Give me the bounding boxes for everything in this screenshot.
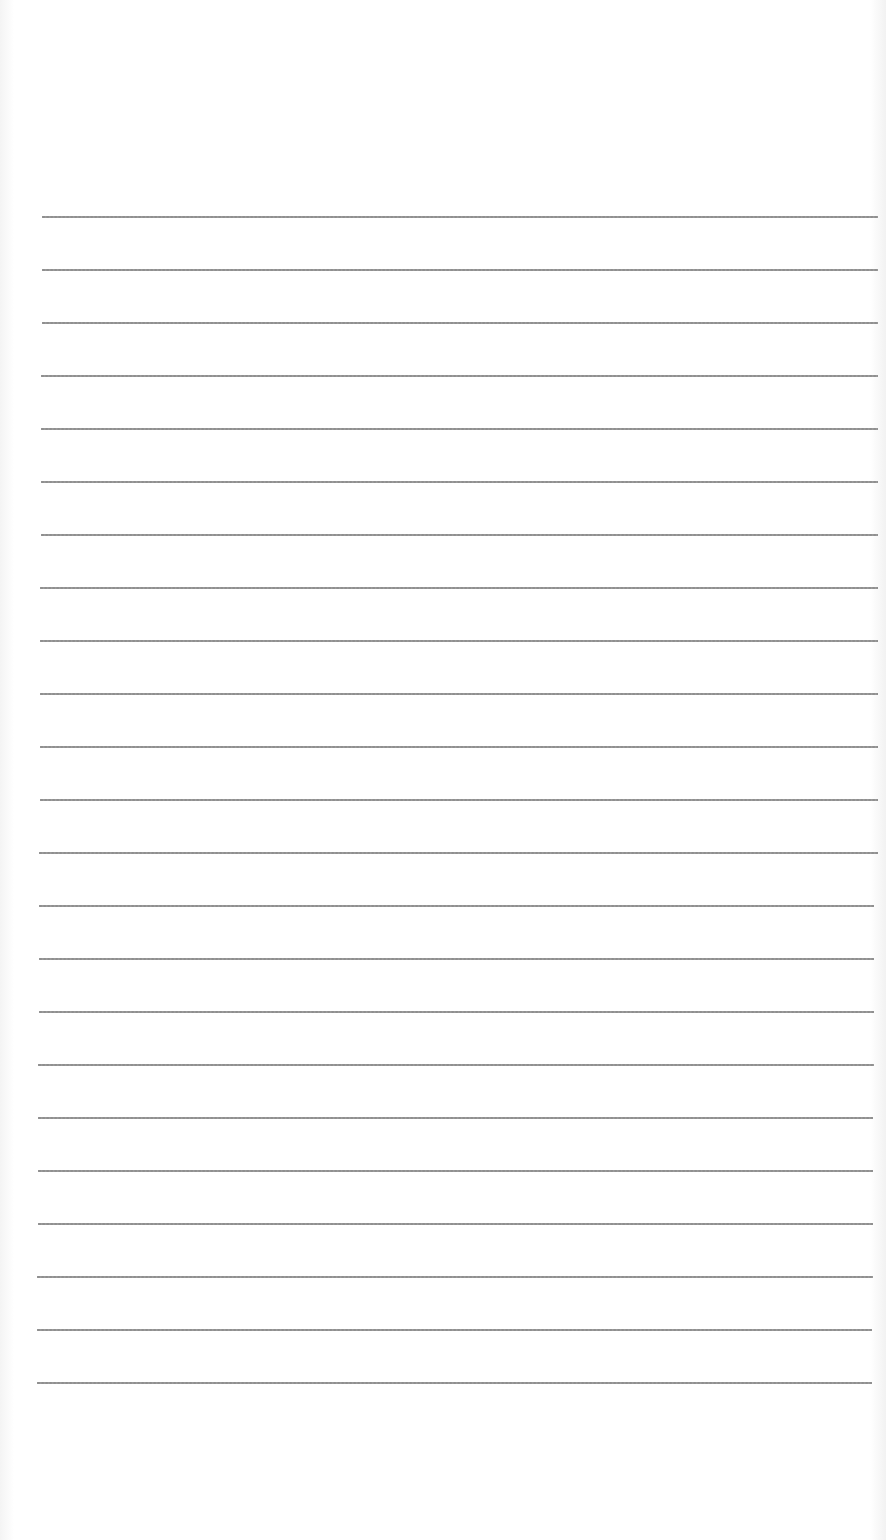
ruled-line — [41, 375, 878, 377]
ruled-line — [37, 1382, 872, 1384]
ruled-line — [41, 481, 878, 483]
ruled-line — [38, 1064, 873, 1066]
ruled-line — [38, 1117, 873, 1119]
ruled-line — [37, 1276, 872, 1278]
ruled-line — [42, 269, 878, 271]
ruled-line — [39, 958, 874, 960]
ruled-line — [41, 428, 878, 430]
ruled-line — [38, 1170, 873, 1172]
ruled-line — [42, 216, 878, 218]
lined-paper-page — [0, 0, 886, 1540]
ruled-line — [39, 852, 878, 854]
ruled-line — [42, 322, 878, 324]
ruled-line — [41, 534, 878, 536]
ruled-line — [39, 1011, 874, 1013]
ruled-line — [40, 693, 878, 695]
ruled-line — [40, 640, 878, 642]
ruled-line — [38, 1223, 873, 1225]
ruled-line — [40, 587, 878, 589]
ruled-line — [40, 746, 878, 748]
ruled-line — [37, 1329, 872, 1331]
ruled-line — [39, 905, 874, 907]
ruled-line — [40, 799, 879, 801]
